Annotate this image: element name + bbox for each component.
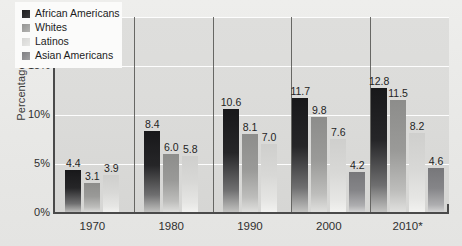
bar [242, 134, 258, 213]
bar [330, 139, 346, 213]
bar-value-label: 4.6 [422, 156, 450, 167]
bar [409, 133, 425, 213]
bar-chart-figure: Percentage 0%5%10%15%20% 4.43.13.98.46.0… [0, 0, 462, 246]
bar [261, 144, 277, 213]
bar-value-label: 10.6 [217, 97, 245, 108]
group-separator [213, 17, 214, 213]
y-axis-tick-label: 0% [4, 207, 50, 218]
bar-value-label: 11.7 [286, 86, 314, 97]
legend-swatch-icon [22, 24, 30, 32]
x-axis-tick-label: 2000 [289, 220, 368, 232]
bar-value-label: 11.5 [384, 88, 412, 99]
x-axis-tick-label: 1980 [132, 220, 211, 232]
bar-value-label: 8.2 [403, 121, 431, 132]
chart-legend: African AmericansWhitesLatinosAsian Amer… [15, 2, 122, 68]
bar [371, 88, 387, 213]
bar [390, 100, 406, 213]
legend-label: Asian Americans [35, 50, 113, 61]
bar-value-label: 12.8 [365, 76, 393, 87]
bar [103, 175, 119, 213]
legend-item: African Americans [22, 7, 115, 20]
x-axis-tick-label: 1970 [53, 220, 132, 232]
x-axis-tick-label: 1990 [211, 220, 290, 232]
bar [84, 183, 100, 213]
bar-value-label: 4.2 [343, 160, 371, 171]
x-axis-end-tick [447, 204, 449, 214]
bar [349, 172, 365, 213]
bar-value-label: 9.8 [305, 105, 333, 116]
legend-label: Latinos [35, 36, 69, 47]
legend-label: Whites [35, 22, 67, 33]
x-axis-line [53, 212, 449, 214]
y-axis-tick-label: 5% [4, 158, 50, 169]
bar [428, 168, 444, 213]
legend-label: African Americans [35, 8, 120, 19]
bar-value-label: 5.8 [176, 144, 204, 155]
legend-swatch-icon [22, 52, 30, 60]
bar [292, 98, 308, 213]
legend-swatch-icon [22, 10, 30, 18]
bar-value-label: 8.4 [138, 119, 166, 130]
x-axis-tick-label: 2010* [368, 220, 447, 232]
bar [182, 156, 198, 213]
legend-swatch-icon [22, 38, 30, 46]
group-separator [134, 17, 135, 213]
bar-value-label: 7.0 [255, 132, 283, 143]
legend-item: Asian Americans [22, 49, 115, 62]
bar-value-label: 3.9 [97, 163, 125, 174]
bar-value-label: 7.6 [324, 127, 352, 138]
bar-value-label: 8.1 [236, 122, 264, 133]
y-axis-tick-label: 10% [4, 109, 50, 120]
bar-value-label: 4.4 [59, 158, 87, 169]
legend-item: Whites [22, 21, 115, 34]
legend-item: Latinos [22, 35, 115, 48]
bar [163, 154, 179, 213]
